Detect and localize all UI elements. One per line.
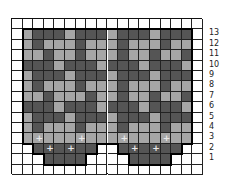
row-number-label: 4 xyxy=(209,122,214,132)
light-cell xyxy=(97,50,108,60)
light-cell xyxy=(108,92,119,102)
pattern-outline xyxy=(22,132,24,144)
dark-cell xyxy=(44,92,55,102)
empty-cell xyxy=(86,154,97,164)
dark-cell xyxy=(54,71,65,81)
dark-cell xyxy=(44,113,55,123)
empty-cell xyxy=(12,165,23,175)
light-cell xyxy=(108,113,119,123)
dark-cell xyxy=(118,71,129,81)
light-cell xyxy=(171,81,182,91)
dark-cell xyxy=(139,29,150,39)
empty-cell xyxy=(44,165,55,175)
light-cell xyxy=(54,61,65,71)
empty-cell xyxy=(182,154,193,164)
dark-cell xyxy=(44,50,55,60)
dark-cell xyxy=(76,29,87,39)
pattern-outline xyxy=(128,153,130,165)
light-cell xyxy=(150,113,161,123)
row-number-label: 12 xyxy=(209,39,219,49)
pattern-outline xyxy=(191,132,193,144)
light-cell xyxy=(86,40,97,50)
empty-cell xyxy=(182,165,193,175)
dark-cell xyxy=(161,102,172,112)
empty-cell xyxy=(192,133,203,143)
dark-cell xyxy=(118,81,129,91)
dark-cell xyxy=(54,29,65,39)
dark-cell xyxy=(150,50,161,60)
pattern-outline xyxy=(32,143,34,155)
light-cell xyxy=(129,40,140,50)
plus-symbol-icon: + xyxy=(67,144,75,153)
empty-cell xyxy=(192,165,203,175)
light-cell xyxy=(139,92,150,102)
dark-cell xyxy=(76,71,87,81)
dark-cell xyxy=(44,71,55,81)
empty-cell xyxy=(12,144,23,154)
dark-cell xyxy=(23,61,34,71)
light-cell xyxy=(86,50,97,60)
dark-cell xyxy=(33,123,44,133)
empty-cell xyxy=(171,165,182,175)
light-cell xyxy=(150,123,161,133)
dark-cell xyxy=(33,71,44,81)
light-cell xyxy=(129,81,140,91)
colorwork-chart-grid: ++++++++ xyxy=(11,18,202,174)
empty-cell xyxy=(97,165,108,175)
empty-cell xyxy=(192,92,203,102)
light-cell xyxy=(161,50,172,60)
light-cell xyxy=(65,71,76,81)
pattern-outline xyxy=(85,153,87,165)
dark-cell xyxy=(76,40,87,50)
row-number-label: 6 xyxy=(209,101,214,111)
light-cell xyxy=(54,81,65,91)
row-number-label: 8 xyxy=(209,80,214,90)
row-number-label: 3 xyxy=(209,132,214,142)
dark-cell xyxy=(118,113,129,123)
dark-cell xyxy=(161,71,172,81)
dark-cell xyxy=(129,71,140,81)
dark-cell xyxy=(118,29,129,39)
dark-cell xyxy=(97,29,108,39)
dark-cell xyxy=(150,92,161,102)
row-number-label: 1 xyxy=(209,153,214,163)
light-cell xyxy=(54,133,65,143)
dark-cell xyxy=(86,29,97,39)
dark-cell xyxy=(171,102,182,112)
light-cell xyxy=(97,81,108,91)
dark-cell xyxy=(65,61,76,71)
light-cell xyxy=(108,123,119,133)
light-cell xyxy=(97,40,108,50)
light-cell xyxy=(54,50,65,60)
dark-cell xyxy=(33,61,44,71)
dark-cell xyxy=(44,29,55,39)
empty-cell xyxy=(33,165,44,175)
empty-cell xyxy=(192,144,203,154)
dark-cell xyxy=(54,113,65,123)
light-cell xyxy=(97,102,108,112)
light-cell xyxy=(108,71,119,81)
row-number-label: 13 xyxy=(209,28,219,38)
light-cell xyxy=(65,40,76,50)
dark-cell xyxy=(150,61,161,71)
dark-cell xyxy=(118,92,129,102)
empty-cell xyxy=(161,165,172,175)
light-cell xyxy=(23,92,34,102)
dark-cell xyxy=(86,92,97,102)
light-cell xyxy=(54,123,65,133)
empty-cell xyxy=(192,123,203,133)
light-cell xyxy=(23,71,34,81)
plus-symbol-icon: + xyxy=(163,134,171,143)
light-cell xyxy=(139,102,150,112)
dark-cell xyxy=(139,113,150,123)
row-number-label: 11 xyxy=(209,49,219,59)
light-cell xyxy=(161,92,172,102)
dark-cell xyxy=(118,50,129,60)
light-cell xyxy=(150,29,161,39)
light-cell xyxy=(139,133,150,143)
plus-symbol-icon: + xyxy=(152,144,160,153)
light-cell xyxy=(150,40,161,50)
empty-cell xyxy=(108,154,119,164)
light-cell xyxy=(139,40,150,50)
dark-cell xyxy=(76,50,87,60)
